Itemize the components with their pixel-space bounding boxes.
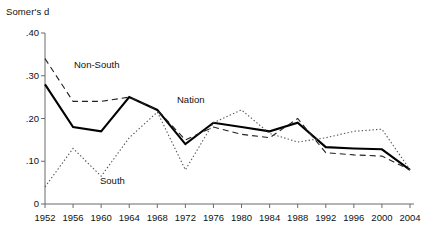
y-axis-tick-label: .30 xyxy=(2,70,39,81)
data-series-group xyxy=(45,59,410,187)
series-label-non-south: Non-South xyxy=(74,59,119,70)
y-axis-ticks xyxy=(41,33,45,204)
series-line-non-south xyxy=(45,59,410,170)
y-axis-tick-label: 0 xyxy=(2,198,39,209)
y-axis-tick-label: .10 xyxy=(2,155,39,166)
chart-plot-area xyxy=(0,0,428,241)
x-axis-tick-label: 2004 xyxy=(393,212,427,223)
series-label-south: South xyxy=(100,175,125,186)
series-line-nation xyxy=(45,84,410,170)
x-axis-ticks xyxy=(45,204,410,208)
y-axis-tick-label: .40 xyxy=(2,27,39,38)
y-axis-tick-label: .20 xyxy=(2,113,39,124)
chart-container: Somer's d 0.10.20.30.40 1952195619601964… xyxy=(0,0,428,241)
series-label-nation: Nation xyxy=(177,94,204,105)
